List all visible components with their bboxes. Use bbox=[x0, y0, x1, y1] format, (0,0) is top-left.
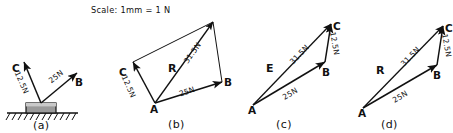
panel-c-label-b: B bbox=[322, 66, 330, 78]
panel-d-caption: (d) bbox=[381, 118, 398, 131]
panel-b-label-resultant: R bbox=[168, 62, 176, 75]
panel-d-label-b: B bbox=[433, 69, 441, 81]
panel-a-label-b: B bbox=[75, 76, 83, 88]
panel-a-caption: (a) bbox=[33, 119, 50, 132]
panel-d-label-resultant: R bbox=[376, 64, 384, 77]
panel-c-label-a: A bbox=[248, 104, 256, 116]
panel-c-caption: (c) bbox=[276, 118, 292, 131]
panel-b-caption: (b) bbox=[168, 118, 185, 131]
panel-b-label-b: B bbox=[224, 76, 232, 88]
panel-d-label-a: A bbox=[358, 107, 366, 119]
panel-b-label-a: A bbox=[150, 103, 158, 115]
panel-c-label-resultant: E bbox=[266, 62, 274, 75]
